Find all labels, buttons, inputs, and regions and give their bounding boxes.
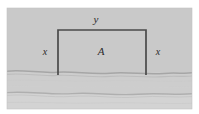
panel-lower-ground — [7, 92, 192, 109]
label-area-a: A — [98, 46, 105, 57]
figure-canvas — [0, 0, 199, 114]
figure-root: y x x A — [0, 0, 199, 114]
panel-upper-ground — [7, 8, 192, 74]
label-right-side-x: x — [156, 47, 160, 57]
label-top-side-y: y — [94, 14, 99, 25]
label-left-side-x: x — [43, 47, 47, 57]
